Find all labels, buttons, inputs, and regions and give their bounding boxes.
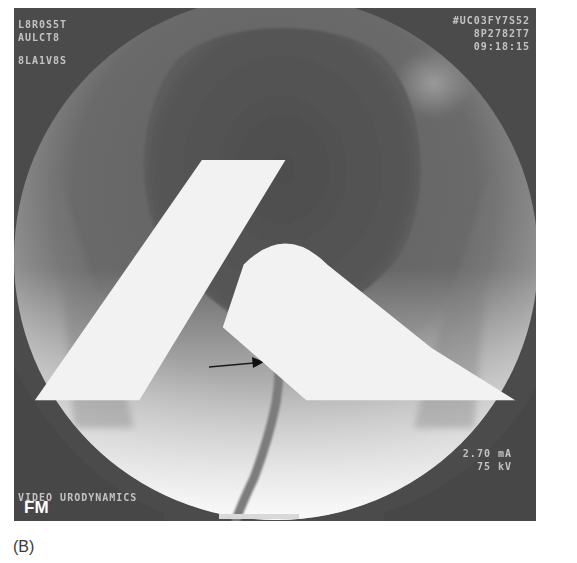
vendor-logo-icon bbox=[14, 8, 536, 521]
fluoroscopy-image: L8R0S5T AULCT88LA1V8S #UC03FY7S52 8P2782… bbox=[14, 8, 536, 521]
figure-caption: (B) bbox=[13, 538, 34, 556]
figure-panel: L8R0S5T AULCT88LA1V8S #UC03FY7S52 8P2782… bbox=[0, 0, 577, 563]
